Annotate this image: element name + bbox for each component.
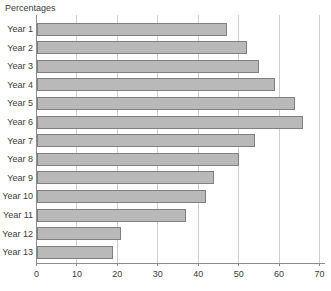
gridline (319, 15, 320, 263)
bar (37, 246, 114, 259)
x-tick-label: 20 (106, 269, 128, 279)
x-tick-label: 0 (26, 269, 48, 279)
category-label: Year 4 (0, 80, 33, 90)
category-label: Year 13 (0, 247, 33, 257)
bar (37, 97, 296, 110)
bar (37, 227, 122, 240)
x-tick-label: 50 (228, 269, 250, 279)
category-label: Year 7 (0, 136, 33, 146)
category-label: Year 2 (0, 43, 33, 53)
bar (37, 60, 259, 73)
x-tick-label: 70 (309, 269, 331, 279)
bar-chart: Percentages 010203040506070Year 1Year 2Y… (0, 0, 331, 291)
bar (37, 171, 215, 184)
bar (37, 78, 276, 91)
x-tick-label: 60 (268, 269, 290, 279)
gridline (279, 15, 280, 263)
bar (37, 153, 239, 166)
category-label: Year 9 (0, 173, 33, 183)
bar (37, 41, 247, 54)
x-tick-label: 30 (147, 269, 169, 279)
plot-area: 010203040506070Year 1Year 2Year 3Year 4Y… (0, 0, 331, 291)
category-label: Year 10 (0, 191, 33, 201)
category-label: Year 3 (0, 61, 33, 71)
bar (37, 190, 207, 203)
bar (37, 116, 304, 129)
x-axis-line (36, 263, 325, 264)
category-label: Year 8 (0, 154, 33, 164)
x-tick-label: 10 (66, 269, 88, 279)
category-label: Year 1 (0, 24, 33, 34)
category-label: Year 5 (0, 98, 33, 108)
category-label: Year 11 (0, 210, 33, 220)
category-label: Year 12 (0, 229, 33, 239)
x-tick-label: 40 (187, 269, 209, 279)
bar (37, 209, 187, 222)
bar (37, 23, 227, 36)
bar (37, 134, 255, 147)
category-label: Year 6 (0, 117, 33, 127)
